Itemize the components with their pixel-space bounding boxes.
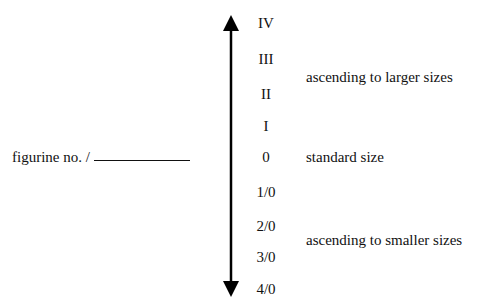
scale-label-ii: II bbox=[246, 85, 286, 103]
scale-label-0: 0 bbox=[246, 148, 286, 166]
scale-label-1-0: 1/0 bbox=[246, 183, 286, 201]
figurine-number-text: figurine no. / bbox=[12, 149, 90, 165]
arrow-down-head-icon bbox=[223, 281, 239, 297]
figurine-number-blank bbox=[94, 160, 190, 161]
scale-label-i: I bbox=[246, 117, 286, 135]
scale-label-iii: III bbox=[246, 50, 286, 68]
scale-label-4-0: 4/0 bbox=[246, 280, 286, 298]
scale-label-iv: IV bbox=[246, 14, 286, 32]
arrow-up-head-icon bbox=[223, 15, 239, 31]
lower-description: ascending to smaller sizes bbox=[306, 231, 462, 249]
middle-description: standard size bbox=[306, 148, 384, 166]
scale-label-3-0: 3/0 bbox=[246, 248, 286, 266]
scale-label-2-0: 2/0 bbox=[246, 217, 286, 235]
figurine-number-label: figurine no. / bbox=[12, 148, 190, 166]
upper-description: ascending to larger sizes bbox=[306, 68, 453, 86]
